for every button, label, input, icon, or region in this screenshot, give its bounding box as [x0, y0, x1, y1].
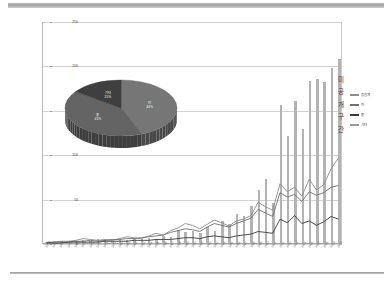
pie-slice-percent: 44%	[140, 105, 160, 109]
pie-slice-side	[74, 124, 76, 138]
y-axis-tick-mark	[50, 200, 52, 201]
vertical-axis-label-char: 공	[336, 86, 346, 98]
pie-slice-percent: 15%	[98, 95, 118, 99]
legend-item[interactable]: 기타	[350, 120, 392, 130]
x-axis-labels: 1970197119721973197419751976197719781979…	[42, 246, 342, 268]
pie-slice-side	[170, 120, 172, 134]
pie-slice-side	[69, 118, 71, 132]
pie-slice-side	[106, 135, 110, 147]
pie-slice-side	[99, 134, 103, 147]
vertical-axis-label-char: 개	[336, 99, 346, 111]
y-axis-tick-label: 250	[52, 20, 78, 24]
pie-chart-svg	[58, 76, 184, 148]
pie-slice-side	[160, 127, 163, 141]
chart-page: 050100150200250 197019711972197319741975…	[0, 0, 392, 285]
vertical-axis-label: 미공개구간	[336, 74, 346, 136]
pie-slice-side	[70, 120, 72, 134]
pie-slice-side	[126, 136, 130, 148]
x-axis-label: 2008	[323, 241, 330, 249]
pie-slice-label: 중41%	[88, 113, 108, 121]
x-axis-label: 1976	[89, 241, 96, 249]
pie-slice-side	[138, 134, 142, 147]
pie-slice-side	[95, 133, 99, 146]
vertical-axis-label-char: 구	[336, 111, 346, 123]
y-axis-tick-label: 200	[52, 64, 78, 68]
vertical-axis-label-char: 간	[336, 124, 346, 136]
legend-label: 중	[361, 113, 364, 117]
pie-slice-side	[114, 136, 118, 148]
pie-slice-side	[82, 128, 85, 141]
legend-swatch	[350, 114, 359, 115]
legend-swatch	[350, 104, 359, 105]
pie-slice-side	[172, 118, 174, 132]
pie-slice-side	[110, 135, 114, 147]
pie-chart-inset: 미44%중41%기타15%	[58, 76, 184, 148]
pie-slice-side	[122, 136, 126, 148]
legend-label: 기타	[361, 123, 367, 127]
legend-swatch	[350, 94, 359, 95]
legend-item[interactable]: 중	[350, 110, 392, 120]
page-top-band	[8, 3, 384, 8]
pie-slice-side	[118, 136, 122, 148]
y-axis-tick-label: 50	[52, 198, 78, 202]
pie-slice-side	[88, 131, 91, 144]
pie-slice-side	[134, 135, 138, 148]
y-axis-tick-label: 100	[52, 153, 78, 157]
x-axis-label: 1995	[228, 241, 235, 249]
x-axis-label: 2010	[337, 241, 344, 249]
x-axis-label: 1979	[111, 241, 118, 249]
line-series-중	[47, 186, 339, 243]
pie-slice-side	[102, 134, 106, 147]
y-axis-tick-mark	[50, 66, 52, 67]
page-bottom-rule	[10, 272, 384, 274]
pie-slice-side	[142, 133, 146, 146]
x-axis-label: 1986	[162, 241, 169, 249]
x-axis-label: 1998	[250, 241, 257, 249]
x-axis-label: 1973	[67, 241, 74, 249]
pie-slice-side	[149, 131, 153, 144]
vertical-axis-label-char: 미	[336, 74, 346, 86]
pie-slice-side	[146, 132, 150, 145]
pie-slice-side	[92, 132, 95, 145]
legend-item[interactable]: 미	[350, 100, 392, 110]
pie-slice-side	[77, 125, 80, 139]
pie-slice-side	[68, 116, 69, 130]
pie-slice-percent: 41%	[88, 117, 108, 121]
legend-item[interactable]: 총합계	[350, 90, 392, 100]
pie-slice-side	[130, 135, 134, 147]
pie-slice-label: 미44%	[140, 101, 160, 109]
pie-slice-side	[168, 121, 170, 135]
pie-slice-side	[85, 129, 88, 142]
pie-slice-side	[163, 125, 166, 139]
legend-label: 미	[361, 103, 364, 107]
legend-label: 총합계	[361, 93, 370, 97]
legend-swatch	[350, 124, 359, 125]
y-axis-tick-mark	[50, 22, 52, 23]
chart-legend: 총합계미중기타	[350, 90, 392, 130]
pie-slice-side	[165, 123, 167, 137]
pie-slice-side	[79, 127, 82, 140]
pie-slice-side	[72, 122, 74, 136]
x-axis-label: 1989	[184, 241, 191, 249]
pie-slice-label: 기타15%	[98, 91, 118, 99]
y-axis-tick-mark	[50, 155, 52, 156]
pie-slice-side	[156, 128, 159, 141]
x-axis-label: 1992	[206, 241, 213, 249]
x-axis-label: 1970	[45, 241, 52, 249]
y-axis-tick-mark	[50, 111, 52, 112]
pie-slice-side	[153, 130, 156, 143]
